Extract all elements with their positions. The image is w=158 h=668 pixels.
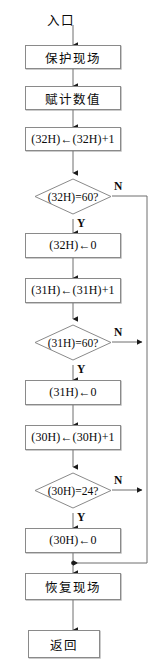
node-restore-context-label: 恢复现场 xyxy=(45,577,101,596)
entry-label: 入口 xyxy=(47,10,75,29)
branch-label-31h-yes: Y xyxy=(77,363,85,375)
node-clear-31h-label: (31H)←0 xyxy=(49,385,96,400)
node-inc-31h-label: (31H)←(31H)+1 xyxy=(31,283,114,298)
decision-test-30h: (30H)=24? xyxy=(34,472,112,509)
node-return: 返回 xyxy=(28,630,100,658)
node-inc-32h-label: (32H)←(32H)+1 xyxy=(31,132,114,147)
node-save-context-label: 保护现场 xyxy=(45,48,101,67)
decision-test-31h-label: (31H)=60? xyxy=(48,337,99,349)
node-restore-context: 恢复现场 xyxy=(25,573,121,600)
node-clear-30h: (30H)←0 xyxy=(25,528,121,553)
node-clear-30h-label: (30H)←0 xyxy=(49,533,96,548)
node-inc-30h: (30H)←(30H)+1 xyxy=(25,425,121,450)
decision-test-32h: (32H)=60? xyxy=(34,178,112,215)
branch-label-32h-yes: Y xyxy=(77,217,85,229)
decision-test-30h-label: (30H)=24? xyxy=(48,485,99,497)
node-clear-31h: (31H)←0 xyxy=(25,380,121,405)
node-inc-30h-label: (30H)←(30H)+1 xyxy=(31,430,114,445)
node-clear-32h: (32H)←0 xyxy=(25,233,121,258)
node-return-label: 返回 xyxy=(50,635,78,654)
node-assign-counts: 赋计数值 xyxy=(25,86,121,110)
branch-label-30h-no: N xyxy=(114,474,122,486)
branch-label-30h-yes: Y xyxy=(77,511,85,523)
node-save-context: 保护现场 xyxy=(25,45,121,69)
node-inc-32h: (32H)←(32H)+1 xyxy=(25,127,121,151)
flowchart-canvas: 入口 保护现场 赋计数值 (32H)←(32H)+1 (32H)=60? N Y… xyxy=(0,0,158,668)
node-clear-32h-label: (32H)←0 xyxy=(49,238,96,253)
branch-label-31h-no: N xyxy=(114,326,122,338)
decision-test-31h: (31H)=60? xyxy=(34,324,112,361)
node-inc-31h: (31H)←(31H)+1 xyxy=(25,278,121,303)
decision-test-32h-label: (32H)=60? xyxy=(48,191,99,203)
branch-label-32h-no: N xyxy=(114,180,122,192)
node-assign-counts-label: 赋计数值 xyxy=(45,89,101,108)
merge-junction-dot xyxy=(71,561,75,565)
